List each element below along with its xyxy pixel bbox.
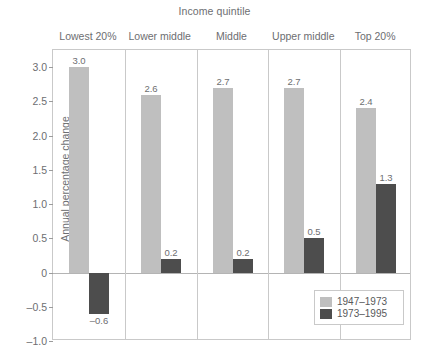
legend-item-1: 1973–1995 xyxy=(320,308,398,319)
y-axis-tick-6: 0 xyxy=(41,267,53,279)
legend-item-label: 1973–1995 xyxy=(337,308,387,319)
bar-series1-cat1: 0.2 xyxy=(161,259,181,273)
bar-chart-figure: Income quintile Lowest 20%Lower middleMi… xyxy=(0,0,429,357)
category-header-strip: Lowest 20%Lower middleMiddleUpper middle… xyxy=(52,27,411,45)
y-axis-tick-7: –0.5 xyxy=(27,301,53,313)
bar-value-label: 2.7 xyxy=(287,76,300,87)
panel-separator-2 xyxy=(197,50,198,339)
bar-series0-cat3: 2.7 xyxy=(284,88,304,273)
y-axis-tick-3: 1.5 xyxy=(32,164,53,176)
bar-value-label: 2.6 xyxy=(144,83,157,94)
y-axis-tick-4: 1.0 xyxy=(32,198,53,210)
category-label-3: Upper middle xyxy=(267,27,339,45)
legend-swatch-icon xyxy=(320,297,332,307)
bar-series0-cat4: 2.4 xyxy=(356,108,376,272)
y-axis-tick-8: –1.0 xyxy=(27,335,53,347)
category-label-2: Middle xyxy=(196,27,268,45)
bar-series0-cat1: 2.6 xyxy=(141,95,161,273)
bar-value-label: 2.4 xyxy=(359,96,372,107)
chart-title: Income quintile xyxy=(0,5,429,17)
bar-value-label: 0.2 xyxy=(164,247,177,258)
y-axis-tick-0: 3.0 xyxy=(32,61,53,73)
panel-separator-1 xyxy=(125,50,126,339)
bar-value-label: 3.0 xyxy=(72,55,85,66)
bar-series1-cat3: 0.5 xyxy=(304,238,324,272)
legend-item-label: 1947–1973 xyxy=(337,296,387,307)
y-axis-tick-2: 2.0 xyxy=(32,130,53,142)
y-axis-tick-1: 2.5 xyxy=(32,95,53,107)
bar-series0-cat2: 2.7 xyxy=(213,88,233,273)
bar-series1-cat4: 1.3 xyxy=(376,184,396,273)
bar-value-label: –0.6 xyxy=(90,315,109,326)
legend-item-0: 1947–1973 xyxy=(320,296,398,307)
category-label-0: Lowest 20% xyxy=(52,27,124,45)
bar-value-label: 1.3 xyxy=(379,172,392,183)
legend-swatch-icon xyxy=(320,309,332,319)
bar-value-label: 2.7 xyxy=(216,76,229,87)
bar-value-label: 0.5 xyxy=(307,226,320,237)
panel-separator-3 xyxy=(268,50,269,339)
category-label-4: Top 20% xyxy=(339,27,411,45)
y-axis-tick-5: 0.5 xyxy=(32,232,53,244)
bar-value-label: 0.2 xyxy=(236,247,249,258)
bar-series1-cat0: –0.6 xyxy=(89,273,109,314)
bar-series0-cat0: 3.0 xyxy=(69,67,89,272)
bar-series1-cat2: 0.2 xyxy=(233,259,253,273)
category-label-1: Lower middle xyxy=(124,27,196,45)
chart-legend: 1947–1973 1973–1995 xyxy=(314,290,404,325)
